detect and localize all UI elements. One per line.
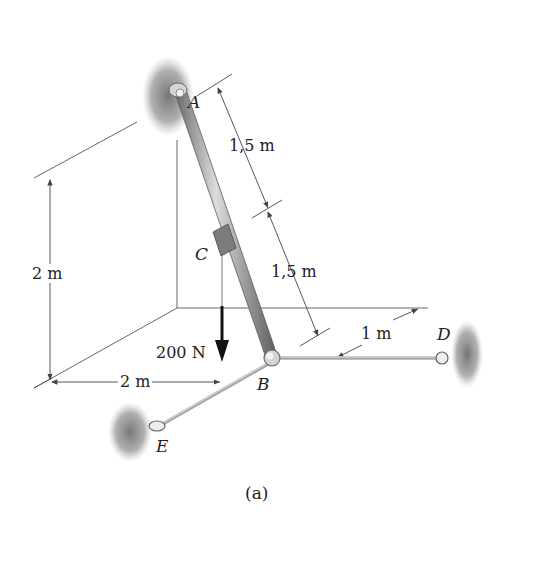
label-point-e: E bbox=[156, 436, 168, 456]
diagram-figure: A C B D E 1,5 m 1,5 m 1 m 2 m 2 m 200 N … bbox=[0, 0, 539, 561]
wall-support-e bbox=[108, 402, 152, 462]
label-load: 200 N bbox=[156, 343, 206, 362]
label-point-b: B bbox=[257, 374, 270, 394]
joint-a bbox=[169, 83, 187, 97]
hook-e bbox=[149, 421, 165, 431]
label-dim-depth: 2 m bbox=[118, 372, 152, 391]
label-point-a: A bbox=[188, 92, 200, 112]
label-dim-cb: 1,5 m bbox=[271, 262, 317, 281]
cable-be bbox=[152, 363, 268, 430]
diagram-canvas bbox=[0, 0, 539, 561]
hook-d bbox=[436, 352, 448, 364]
wall-support-d bbox=[451, 320, 483, 388]
label-point-c: C bbox=[195, 244, 208, 264]
label-dim-bd-offset: 1 m bbox=[361, 324, 391, 343]
joint-b bbox=[264, 350, 280, 366]
label-dim-height: 2 m bbox=[32, 264, 62, 283]
rod-ab bbox=[176, 90, 276, 358]
cable-bd bbox=[276, 357, 440, 358]
label-dim-ac: 1,5 m bbox=[229, 136, 275, 155]
label-point-d: D bbox=[437, 324, 451, 344]
load-arrow bbox=[215, 248, 229, 362]
figure-caption: (a) bbox=[245, 483, 268, 503]
